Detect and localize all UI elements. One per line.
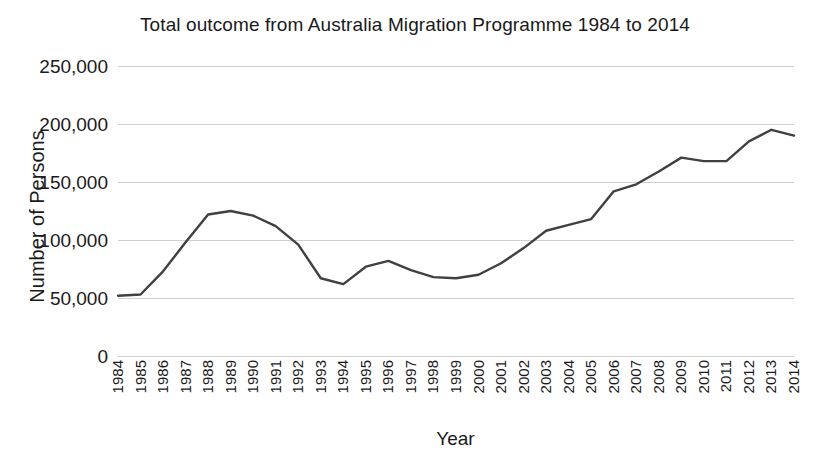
- gridline: [118, 356, 794, 357]
- x-axis-tick-label: 2003: [538, 360, 553, 393]
- x-axis-tick-label: 1997: [403, 360, 418, 393]
- y-axis-tick-label: 100,000: [0, 231, 108, 250]
- x-axis-tick-label: 1998: [425, 360, 440, 393]
- x-axis-tick-label: 2009: [673, 360, 688, 393]
- y-axis-tick-labels: 250,000200,000150,000100,00050,0000: [0, 66, 108, 356]
- data-series-line: [118, 66, 794, 356]
- x-axis-tick-label: 1996: [380, 360, 395, 393]
- x-axis-tick-label: 2010: [696, 360, 711, 393]
- y-axis-tick-label: 250,000: [0, 57, 108, 76]
- x-axis-tick-label: 2006: [606, 360, 621, 393]
- x-axis-tick-label: 1992: [290, 360, 305, 393]
- x-axis-label: Year: [118, 428, 793, 450]
- x-axis-tick-label: 2011: [718, 360, 733, 392]
- chart-title: Total outcome from Australia Migration P…: [0, 14, 830, 36]
- x-axis-tick-label: 1995: [358, 360, 373, 393]
- x-axis-tick-label: 1984: [110, 360, 125, 393]
- x-axis-tick-label: 2012: [741, 360, 756, 393]
- x-axis-tick-label: 1987: [178, 360, 193, 393]
- x-axis-tick-label: 1991: [268, 360, 283, 393]
- y-axis-tick-label: 200,000: [0, 115, 108, 134]
- migration-line-chart: Total outcome from Australia Migration P…: [0, 0, 830, 466]
- y-axis-tick-label: 50,000: [0, 289, 108, 308]
- y-axis-tick-label: 150,000: [0, 173, 108, 192]
- x-axis-tick-label: 1985: [133, 360, 148, 393]
- x-axis-tick-label: 2014: [786, 360, 801, 393]
- x-axis-tick-label: 1990: [245, 360, 260, 393]
- x-axis-tick-label: 2001: [493, 360, 508, 393]
- x-axis-tick-label: 1988: [200, 360, 215, 393]
- x-axis-tick-label: 1999: [448, 360, 463, 393]
- x-axis-tick-label: 2004: [561, 360, 576, 393]
- x-axis-tick-label: 2002: [516, 360, 531, 393]
- x-axis-tick-label: 1994: [335, 360, 350, 393]
- x-axis-tick-label: 2000: [471, 360, 486, 393]
- x-axis-tick-label: 2013: [763, 360, 778, 393]
- x-axis-tick-label: 1986: [155, 360, 170, 393]
- x-axis-tick-label: 1989: [223, 360, 238, 393]
- x-axis-tick-label: 2008: [651, 360, 666, 393]
- x-axis-tick-label: 2007: [628, 360, 643, 393]
- x-axis-tick-label: 1993: [313, 360, 328, 393]
- x-axis-tick-labels: 1984198519861987198819891990199119921993…: [118, 360, 794, 426]
- y-axis-tick-label: 0: [0, 347, 108, 366]
- x-axis-tick-label: 2005: [583, 360, 598, 393]
- plot-area: [118, 66, 794, 356]
